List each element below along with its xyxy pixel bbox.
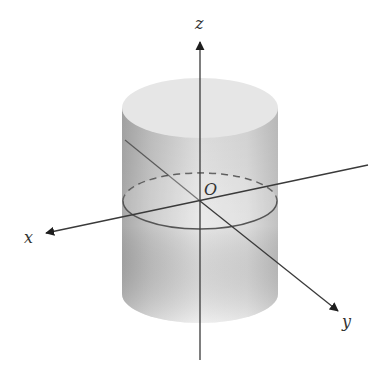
cylinder-diagram: z x y O bbox=[0, 0, 382, 387]
y-axis-label: y bbox=[341, 312, 352, 331]
z-axis-label: z bbox=[194, 14, 204, 33]
x-axis-label: x bbox=[24, 228, 33, 247]
origin-label: O bbox=[204, 180, 217, 199]
